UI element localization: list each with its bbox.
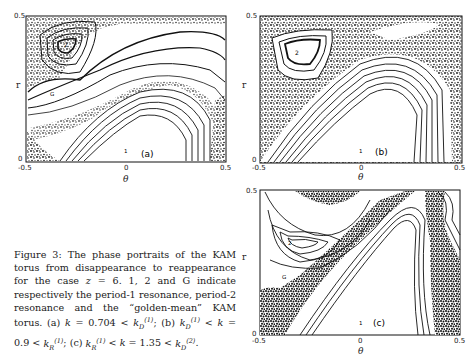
x-tick-left: -0.5 bbox=[18, 164, 32, 172]
y-axis-label: r bbox=[242, 80, 246, 90]
figure-number: Figure 3: bbox=[14, 249, 62, 260]
caption-b: ; (b) bbox=[153, 317, 179, 328]
x-tick-mid: 0 bbox=[358, 337, 362, 345]
phase-portrait-a: 2 1 (a) G bbox=[0, 0, 240, 190]
x-tick-mid: 0 bbox=[359, 164, 363, 172]
caption-text: = 0.704 < bbox=[71, 317, 133, 328]
x-tick-right: 0.5 bbox=[454, 164, 465, 172]
caption-text: = 1.35 < bbox=[125, 338, 175, 349]
svg-text:G: G bbox=[282, 274, 286, 280]
svg-text:G: G bbox=[50, 91, 54, 97]
caption-a: (a) bbox=[47, 317, 65, 328]
x-axis-label: θ bbox=[123, 174, 128, 184]
caption-text: < bbox=[106, 338, 120, 349]
panel-b-label: (b) bbox=[375, 147, 388, 157]
x-axis-label: θ bbox=[358, 346, 363, 356]
svg-text:1: 1 bbox=[124, 148, 128, 154]
x-tick-right: 0.5 bbox=[220, 164, 231, 172]
svg-text:1: 1 bbox=[359, 148, 363, 154]
svg-text:1: 1 bbox=[359, 320, 363, 326]
y-tick-top: 0.5 bbox=[14, 12, 25, 20]
svg-text:2: 2 bbox=[295, 49, 299, 56]
caption-c: ; (c) bbox=[63, 338, 85, 349]
panel-a: 2 1 (a) G 0.5 0 r -0.5 0 0.5 θ bbox=[0, 0, 240, 190]
x-tick-left: -0.5 bbox=[252, 164, 266, 172]
y-tick-bottom: 0 bbox=[252, 156, 256, 164]
svg-text:2: 2 bbox=[64, 41, 68, 48]
y-axis-label: r bbox=[242, 252, 246, 262]
caption-text: < bbox=[200, 317, 217, 328]
caption-var: kR(1) bbox=[86, 338, 106, 349]
x-tick-right: 0.5 bbox=[454, 337, 465, 345]
svg-text:2: 2 bbox=[288, 240, 292, 246]
caption-var: kR(1) bbox=[43, 338, 63, 349]
y-axis-label: r bbox=[16, 80, 20, 90]
caption-var: kD(2) bbox=[175, 338, 195, 349]
panel-c: 2 G 1 (c) 0.5 0 r -0.5 0 0.5 θ bbox=[240, 180, 476, 364]
panel-b: 2 1 (b) 0.5 0 r -0.5 0 0.5 θ bbox=[240, 0, 476, 190]
phase-portrait-b: 2 1 (b) bbox=[240, 0, 476, 190]
y-tick-top: 0.5 bbox=[246, 12, 257, 20]
caption-text: . bbox=[195, 338, 198, 349]
panel-a-label: (a) bbox=[141, 149, 154, 159]
x-tick-left: -0.5 bbox=[252, 337, 266, 345]
caption-var: kD(1) bbox=[180, 317, 200, 328]
figure-caption: Figure 3: The phase portraits of the KAM… bbox=[14, 248, 236, 355]
caption-var: kD(1) bbox=[133, 317, 153, 328]
y-tick-top: 0.5 bbox=[246, 187, 257, 195]
x-tick-mid: 0 bbox=[124, 164, 128, 172]
panel-c-label: (c) bbox=[373, 318, 385, 328]
y-tick-bottom: 0 bbox=[18, 155, 22, 163]
